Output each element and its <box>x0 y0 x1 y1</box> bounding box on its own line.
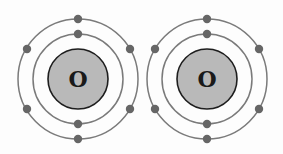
element-symbol: O <box>68 66 87 92</box>
electron <box>151 105 159 113</box>
atom-2: O <box>147 15 267 143</box>
diagram-canvas: O O <box>0 0 283 154</box>
electron <box>203 120 211 128</box>
element-symbol: O <box>197 66 216 92</box>
electron <box>255 105 263 113</box>
electron <box>203 15 211 23</box>
atom-1: O <box>18 15 138 143</box>
electron <box>126 105 134 113</box>
electron <box>126 45 134 53</box>
bohr-diagram: O O <box>0 0 283 154</box>
electron <box>74 135 82 143</box>
electron <box>151 45 159 53</box>
electron <box>23 105 31 113</box>
electron <box>23 45 31 53</box>
electron <box>255 45 263 53</box>
electron <box>74 120 82 128</box>
electron <box>74 15 82 23</box>
electron <box>203 135 211 143</box>
electron <box>203 30 211 38</box>
electron <box>74 30 82 38</box>
